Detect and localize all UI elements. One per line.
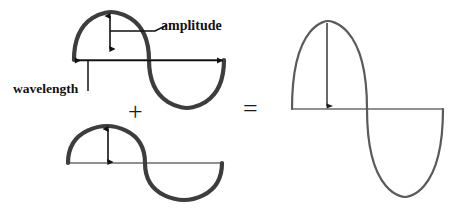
wave-diagram-canvas <box>0 0 459 218</box>
wave-superposition-figure: amplitude wavelength + = <box>0 0 459 218</box>
wavelength-label: wavelength <box>13 82 78 96</box>
equals-operator: = <box>243 96 258 122</box>
amplitude-annotation-group <box>110 16 167 49</box>
amplitude-label: amplitude <box>161 19 222 33</box>
wave-bottom-group <box>68 126 222 200</box>
wave-result-group <box>292 21 443 197</box>
plus-operator: + <box>128 99 143 125</box>
